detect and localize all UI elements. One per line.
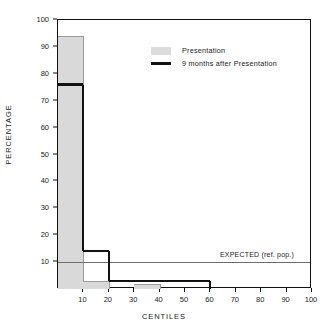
legend-item-nine-months: 9 months after Presentation	[151, 57, 277, 70]
y-tick-label: 30	[9, 203, 49, 212]
expected-reference-line	[58, 262, 310, 263]
legend-swatch-black-icon	[151, 62, 171, 65]
bar-presentation	[58, 36, 83, 289]
x-tick-mark	[260, 288, 261, 292]
step-top-nine-months	[134, 280, 159, 282]
y-tick-label: 10	[9, 257, 49, 266]
expected-reference-label: EXPECTED (ref. pop.)	[220, 251, 294, 258]
legend-item-presentation: Presentation	[151, 44, 277, 57]
chart-figure: PERCENTAGE CENTILES 10203040506070809010…	[0, 0, 328, 332]
x-tick-label: 100	[296, 295, 326, 304]
step-riser-nine-months	[108, 251, 110, 281]
bar-presentation-outline	[134, 284, 159, 285]
step-top-nine-months	[58, 83, 83, 85]
bar-presentation	[83, 281, 108, 289]
y-tick-label: 90	[9, 41, 49, 50]
step-top-nine-months	[160, 280, 185, 282]
bar-presentation-outline	[109, 281, 110, 289]
step-riser-nine-months	[82, 85, 84, 252]
y-tick-label: 60	[9, 122, 49, 131]
plot-area: EXPECTED (ref. pop.) Presentation 9 mont…	[57, 19, 311, 288]
x-axis-title: CENTILES	[0, 312, 328, 321]
plot-inner: EXPECTED (ref. pop.) Presentation 9 mont…	[58, 20, 310, 287]
y-tick-label: 70	[9, 95, 49, 104]
x-tick-mark	[235, 288, 236, 292]
chart-legend: Presentation 9 months after Presentation	[151, 44, 277, 70]
legend-swatch-gray-icon	[151, 47, 171, 55]
x-tick-mark	[184, 288, 185, 292]
bar-presentation-outline	[160, 284, 161, 289]
bar-presentation	[134, 284, 159, 289]
step-closing-riser-nine-months	[209, 281, 211, 289]
step-top-nine-months	[83, 250, 108, 252]
x-tick-mark	[311, 288, 312, 292]
bar-presentation-outline	[58, 36, 83, 37]
y-tick-label: 20	[9, 230, 49, 239]
y-tick-label: 50	[9, 149, 49, 158]
step-top-nine-months	[185, 280, 210, 282]
legend-label-nine-months: 9 months after Presentation	[182, 59, 277, 68]
legend-label-presentation: Presentation	[182, 46, 225, 55]
y-tick-label: 80	[9, 68, 49, 77]
x-tick-mark	[286, 288, 287, 292]
y-tick-label: 100	[9, 15, 49, 24]
step-top-nine-months	[109, 280, 134, 282]
y-tick-label: 40	[9, 176, 49, 185]
bar-presentation-outline	[83, 281, 108, 282]
